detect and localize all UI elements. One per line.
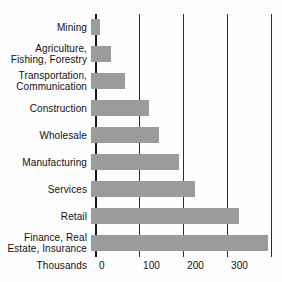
bar-track-wholesale [91, 122, 278, 148]
bar-track-transportation [91, 68, 278, 94]
bar-track-mining [91, 14, 278, 40]
x-tick-label-0: 0 [99, 260, 105, 272]
bar-row-transportation: Transportation, Communication [0, 68, 282, 94]
category-label-agriculture: Agriculture, Fishing, Forestry [0, 43, 91, 65]
bar-track-finance [91, 230, 278, 256]
category-label-construction: Construction [0, 103, 91, 114]
bar-row-construction: Construction [0, 95, 282, 121]
bar-track-manufacturing [91, 149, 278, 175]
bar-row-wholesale: Wholesale [0, 122, 282, 148]
bar-mining [91, 19, 100, 35]
category-label-manufacturing: Manufacturing [0, 157, 91, 168]
bar-transportation [91, 73, 125, 89]
bar-row-retail: Retail [0, 203, 282, 229]
x-tick-label-100: 100 [143, 260, 160, 272]
bar-row-services: Services [0, 176, 282, 202]
bar-retail [91, 208, 239, 224]
x-axis-caption: Thousands [0, 260, 91, 272]
bar-agriculture [91, 46, 111, 62]
x-tick-label-300: 300 [231, 260, 248, 272]
bar-manufacturing [91, 154, 179, 170]
bar-row-finance: Finance, Real Estate, Insurance [0, 230, 282, 256]
bar-track-construction [91, 95, 278, 121]
bar-services [91, 181, 195, 197]
category-label-finance: Finance, Real Estate, Insurance [0, 232, 91, 254]
bar-row-mining: Mining [0, 14, 282, 40]
bar-finance [91, 235, 268, 251]
bar-chart: Mining Agriculture, Fishing, Forestry Tr… [0, 0, 282, 282]
bar-track-retail [91, 203, 278, 229]
bar-rows: Mining Agriculture, Fishing, Forestry Tr… [0, 14, 282, 257]
category-label-transportation: Transportation, Communication [0, 70, 91, 92]
category-label-retail: Retail [0, 211, 91, 222]
bar-wholesale [91, 127, 159, 143]
category-label-services: Services [0, 184, 91, 195]
bar-track-services [91, 176, 278, 202]
bar-construction [91, 100, 149, 116]
category-label-mining: Mining [0, 22, 91, 33]
category-label-wholesale: Wholesale [0, 130, 91, 141]
bar-track-agriculture [91, 41, 278, 67]
x-axis: Thousands 0 100 200 300 [0, 257, 282, 277]
bar-row-agriculture: Agriculture, Fishing, Forestry [0, 41, 282, 67]
x-tick-label-200: 200 [187, 260, 204, 272]
bar-row-manufacturing: Manufacturing [0, 149, 282, 175]
